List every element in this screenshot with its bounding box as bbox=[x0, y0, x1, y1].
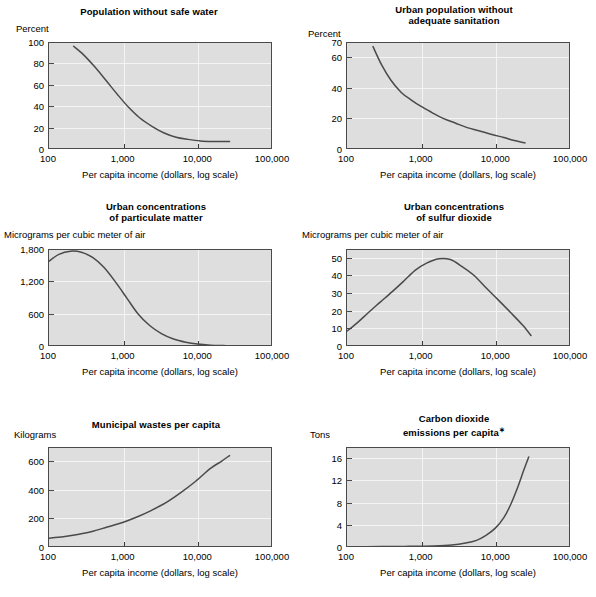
data-series-curve bbox=[48, 251, 234, 346]
chart-panel-urban-concentrations-of-particulate-matter: Urban concentrations of particulate matt… bbox=[0, 197, 298, 396]
data-series-curve bbox=[48, 456, 230, 539]
plot-area-wrapper: 06001,2001,8001001,00010,000100,000Per c… bbox=[0, 197, 298, 396]
data-series-curve bbox=[373, 47, 525, 143]
data-series-curve bbox=[74, 46, 230, 141]
plot-area-wrapper: 02004006001001,00010,000100,000Per capit… bbox=[0, 397, 298, 596]
series-line-layer bbox=[0, 197, 298, 396]
figure-sheet: Population without safe water Percent 02… bbox=[0, 0, 596, 597]
chart-panel-carbon-dioxide-emissions-per-capita: Carbon dioxide emissions per capita∗ Ton… bbox=[298, 397, 596, 596]
chart-panel-urban-concentrations-of-sulfur-dioxide: Urban concentrations of sulfur dioxide M… bbox=[298, 197, 596, 396]
data-series-curve bbox=[346, 258, 531, 335]
chart-panel-urban-population-without-adequate-sanitation: Urban population without adequate sanita… bbox=[298, 0, 596, 199]
plot-area-wrapper: 04812161001,00010,000100,000Per capita i… bbox=[298, 397, 596, 596]
series-line-layer bbox=[298, 197, 596, 396]
series-line-layer bbox=[0, 397, 298, 596]
series-line-layer bbox=[0, 0, 298, 199]
plot-area-wrapper: 0204060801001001,00010,000100,000Per cap… bbox=[0, 0, 298, 199]
plot-area-wrapper: 010203040501001,00010,000100,000Per capi… bbox=[298, 197, 596, 396]
chart-panel-population-without-safe-water: Population without safe water Percent 02… bbox=[0, 0, 298, 199]
plot-area-wrapper: 0204060701001,00010,000100,000Per capita… bbox=[298, 0, 596, 199]
data-series-curve bbox=[346, 457, 529, 547]
series-line-layer bbox=[298, 0, 596, 199]
series-line-layer bbox=[298, 397, 596, 596]
chart-panel-municipal-wastes-per-capita: Municipal wastes per capita Kilograms 02… bbox=[0, 397, 298, 596]
